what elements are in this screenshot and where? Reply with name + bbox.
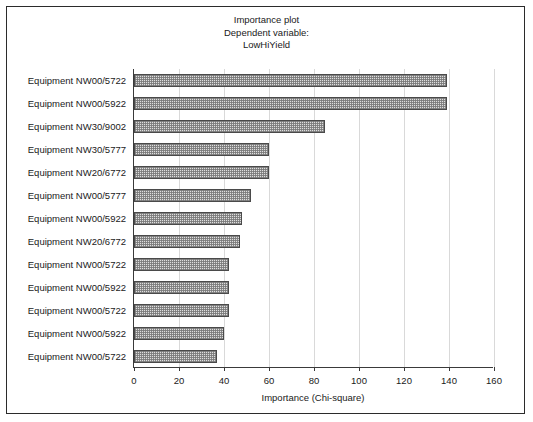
bar-row xyxy=(134,345,217,368)
bar xyxy=(134,304,229,317)
bar xyxy=(134,120,325,133)
bar xyxy=(134,74,447,87)
bar-row xyxy=(134,92,447,115)
category-axis-labels: Equipment NW00/5722Equipment NW00/5922Eq… xyxy=(6,69,130,368)
bar xyxy=(134,327,224,340)
bar-row xyxy=(134,184,251,207)
chart-subtitle: Dependent variable: xyxy=(0,27,533,40)
bar-row xyxy=(134,207,242,230)
chart-title-block: Importance plot Dependent variable: LowH… xyxy=(0,14,533,52)
category-axis-label: Equipment NW00/5777 xyxy=(28,184,126,207)
bar-row xyxy=(134,69,447,92)
bar xyxy=(134,189,251,202)
x-axis-title: Importance (Chi-square) xyxy=(133,392,493,403)
bar xyxy=(134,166,269,179)
bar-series xyxy=(134,69,493,367)
category-axis-label: Equipment NW00/5922 xyxy=(28,276,126,299)
category-axis-label: Equipment NW30/9002 xyxy=(28,115,126,138)
chart-dependent-variable: LowHiYield xyxy=(0,39,533,52)
category-axis-label: Equipment NW20/6772 xyxy=(28,230,126,253)
bar-row xyxy=(134,322,224,345)
chart-title: Importance plot xyxy=(0,14,533,27)
bar-row xyxy=(134,138,269,161)
category-axis-label: Equipment NW00/5922 xyxy=(28,92,126,115)
bar xyxy=(134,281,229,294)
category-axis-label: Equipment NW00/5922 xyxy=(28,207,126,230)
bar xyxy=(134,212,242,225)
category-axis-label: Equipment NW00/5722 xyxy=(28,299,126,322)
bar-row xyxy=(134,276,229,299)
bar-row xyxy=(134,230,240,253)
bar xyxy=(134,258,229,271)
bar xyxy=(134,235,240,248)
bar xyxy=(134,143,269,156)
category-axis-label: Equipment NW00/5722 xyxy=(28,69,126,92)
bar xyxy=(134,97,447,110)
category-axis-label: Equipment NW20/6772 xyxy=(28,161,126,184)
category-axis-label: Equipment NW00/5722 xyxy=(28,345,126,368)
category-axis-label: Equipment NW00/5922 xyxy=(28,322,126,345)
chart-screenshot: Importance plot Dependent variable: LowH… xyxy=(0,0,533,422)
bar xyxy=(134,350,217,363)
category-axis-label: Equipment NW30/5777 xyxy=(28,138,126,161)
bar-row xyxy=(134,115,325,138)
plot-area: 020406080100120140160 xyxy=(133,69,493,368)
category-axis-label: Equipment NW00/5722 xyxy=(28,253,126,276)
bar-row xyxy=(134,161,269,184)
bar-row xyxy=(134,253,229,276)
bar-row xyxy=(134,299,229,322)
